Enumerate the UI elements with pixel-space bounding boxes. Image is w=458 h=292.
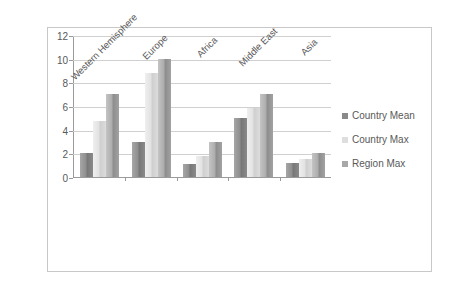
legend-item[interactable]: Country Max: [342, 134, 415, 145]
legend-swatch-icon: [342, 137, 348, 143]
bar[interactable]: [145, 73, 158, 177]
bar[interactable]: [234, 118, 247, 177]
x-tick-mark: [125, 177, 126, 181]
bar[interactable]: [183, 164, 196, 177]
plot-area: 024681012 Western HemisphereEuropeAfrica…: [73, 36, 331, 178]
y-tick-mark: [69, 36, 73, 37]
legend-swatch-icon: [342, 113, 348, 119]
chart-legend: Country MeanCountry MaxRegion Max: [342, 110, 415, 169]
bar[interactable]: [209, 142, 222, 178]
legend-label: Country Max: [352, 134, 409, 145]
bar[interactable]: [106, 94, 119, 177]
y-tick-label: 6: [62, 102, 68, 113]
bar[interactable]: [247, 108, 260, 177]
y-tick-mark: [69, 178, 73, 179]
bar[interactable]: [80, 153, 93, 177]
y-tick-label: 12: [57, 31, 68, 42]
y-tick-mark: [69, 107, 73, 108]
chart-frame: 024681012 Western HemisphereEuropeAfrica…: [47, 27, 432, 272]
legend-item[interactable]: Region Max: [342, 158, 415, 169]
legend-swatch-icon: [342, 161, 348, 167]
x-tick-mark: [228, 177, 229, 181]
bar[interactable]: [286, 163, 299, 177]
x-axis-line: [73, 177, 331, 178]
y-tick-mark: [69, 154, 73, 155]
x-tick-mark: [280, 177, 281, 181]
y-tick-mark: [69, 60, 73, 61]
y-tick-label: 0: [62, 173, 68, 184]
bar[interactable]: [312, 153, 325, 177]
bar[interactable]: [132, 142, 145, 178]
bar[interactable]: [260, 94, 273, 177]
y-tick-label: 10: [57, 54, 68, 65]
x-tick-mark: [177, 177, 178, 181]
y-tick-label: 4: [62, 125, 68, 136]
y-tick-mark: [69, 131, 73, 132]
y-tick-mark: [69, 83, 73, 84]
bar[interactable]: [196, 156, 209, 177]
legend-label: Region Max: [352, 158, 405, 169]
y-tick-label: 2: [62, 149, 68, 160]
y-tick-label: 8: [62, 78, 68, 89]
bar[interactable]: [299, 159, 312, 177]
legend-item[interactable]: Country Mean: [342, 110, 415, 121]
bar[interactable]: [93, 121, 106, 177]
bar[interactable]: [158, 59, 171, 177]
legend-label: Country Mean: [352, 110, 415, 121]
